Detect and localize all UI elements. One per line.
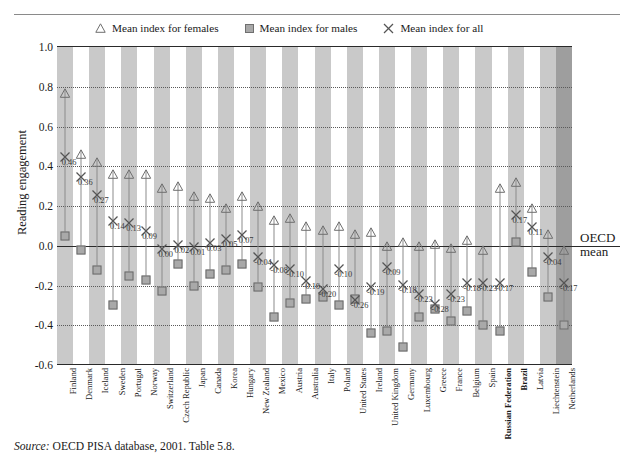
marker-female-triangle[interactable] <box>253 197 264 207</box>
marker-female-triangle[interactable] <box>156 179 167 189</box>
data-column[interactable]: 0.05 <box>218 47 234 365</box>
data-column[interactable]: -0.23 <box>475 47 491 365</box>
marker-female-triangle[interactable] <box>237 187 248 197</box>
marker-male-square[interactable] <box>366 329 375 338</box>
data-column[interactable]: -0.17 <box>492 47 508 365</box>
marker-female-triangle[interactable] <box>542 225 553 235</box>
data-column[interactable]: -0.18 <box>459 47 475 365</box>
marker-male-square[interactable] <box>254 283 263 292</box>
data-column[interactable]: 0.02 <box>170 47 186 365</box>
data-column[interactable]: 0.00 <box>154 47 170 365</box>
marker-female-triangle[interactable] <box>92 153 103 163</box>
square-icon <box>245 24 254 33</box>
marker-female-triangle[interactable] <box>60 84 71 94</box>
data-column[interactable]: 0.36 <box>73 47 89 365</box>
marker-female-triangle[interactable] <box>430 235 441 245</box>
marker-male-square[interactable] <box>189 281 198 290</box>
marker-female-triangle[interactable] <box>381 237 392 247</box>
marker-male-square[interactable] <box>61 231 70 240</box>
data-column[interactable]: -0.10 <box>282 47 298 365</box>
marker-male-square[interactable] <box>238 259 247 268</box>
marker-female-triangle[interactable] <box>526 199 537 209</box>
data-column[interactable]: -0.08 <box>266 47 282 365</box>
marker-male-square[interactable] <box>463 307 472 316</box>
data-column[interactable]: -0.17 <box>556 47 572 365</box>
marker-female-triangle[interactable] <box>124 165 135 175</box>
marker-female-triangle[interactable] <box>76 145 87 155</box>
marker-female-triangle[interactable] <box>494 179 505 189</box>
data-column[interactable]: -0.10 <box>331 47 347 365</box>
marker-male-square[interactable] <box>205 269 214 278</box>
range-stem <box>97 158 98 269</box>
data-column[interactable]: 0.11 <box>524 47 540 365</box>
marker-female-triangle[interactable] <box>108 165 119 175</box>
x-axis-label-ireland: Ireland <box>374 368 384 392</box>
marker-female-triangle[interactable] <box>204 189 215 199</box>
marker-female-triangle[interactable] <box>317 221 328 231</box>
marker-female-triangle[interactable] <box>558 241 569 251</box>
marker-male-square[interactable] <box>511 237 520 246</box>
data-column[interactable]: -0.20 <box>315 47 331 365</box>
marker-female-triangle[interactable] <box>510 173 521 183</box>
marker-male-square[interactable] <box>302 295 311 304</box>
marker-male-square[interactable] <box>382 327 391 336</box>
marker-female-triangle[interactable] <box>333 217 344 227</box>
marker-female-triangle[interactable] <box>269 211 280 221</box>
marker-female-triangle[interactable] <box>414 237 425 247</box>
data-column[interactable]: 0.17 <box>508 47 524 365</box>
marker-male-square[interactable] <box>221 265 230 274</box>
marker-female-triangle[interactable] <box>365 223 376 233</box>
data-column[interactable]: 0.13 <box>121 47 137 365</box>
marker-female-triangle[interactable] <box>140 165 151 175</box>
marker-male-square[interactable] <box>77 245 86 254</box>
marker-female-triangle[interactable] <box>188 187 199 197</box>
marker-female-triangle[interactable] <box>301 217 312 227</box>
marker-male-square[interactable] <box>399 343 408 352</box>
marker-male-square[interactable] <box>447 317 456 326</box>
data-column[interactable]: -0.19 <box>363 47 379 365</box>
marker-female-triangle[interactable] <box>285 209 296 219</box>
data-column[interactable]: -0.18 <box>395 47 411 365</box>
data-column[interactable]: 0.46 <box>57 47 73 365</box>
marker-male-square[interactable] <box>543 293 552 302</box>
data-column[interactable]: -0.04 <box>540 47 556 365</box>
marker-male-square[interactable] <box>334 301 343 310</box>
data-column[interactable]: 0.14 <box>105 47 121 365</box>
data-column[interactable]: -0.16 <box>298 47 314 365</box>
marker-male-square[interactable] <box>479 321 488 330</box>
marker-female-triangle[interactable] <box>478 241 489 251</box>
marker-male-square[interactable] <box>495 327 504 336</box>
data-column[interactable]: 0.27 <box>89 47 105 365</box>
data-column[interactable]: -0.09 <box>379 47 395 365</box>
x-axis-label-latvia: Latvia <box>535 368 545 390</box>
marker-male-square[interactable] <box>109 301 118 310</box>
data-column[interactable]: -0.23 <box>411 47 427 365</box>
marker-male-square[interactable] <box>157 287 166 296</box>
data-column[interactable]: 0.03 <box>202 47 218 365</box>
marker-male-square[interactable] <box>141 275 150 284</box>
data-column[interactable]: -0.28 <box>427 47 443 365</box>
marker-male-square[interactable] <box>559 321 568 330</box>
data-column[interactable]: 0.07 <box>234 47 250 365</box>
marker-male-square[interactable] <box>173 259 182 268</box>
data-column[interactable]: -0.23 <box>443 47 459 365</box>
marker-male-square[interactable] <box>93 265 102 274</box>
x-axis-label-denmark: Denmark <box>84 368 94 400</box>
data-column[interactable]: -0.04 <box>250 47 266 365</box>
marker-female-triangle[interactable] <box>349 225 360 235</box>
x-axis-label-germany: Germany <box>406 368 416 400</box>
data-column[interactable]: 0.01 <box>186 47 202 365</box>
marker-female-triangle[interactable] <box>398 233 409 243</box>
marker-male-square[interactable] <box>270 313 279 322</box>
marker-male-square[interactable] <box>125 271 134 280</box>
marker-female-triangle[interactable] <box>462 231 473 241</box>
marker-female-triangle[interactable] <box>446 239 457 249</box>
data-column[interactable]: -0.26 <box>347 47 363 365</box>
marker-female-triangle[interactable] <box>220 199 231 209</box>
range-stem <box>354 230 355 300</box>
marker-female-triangle[interactable] <box>172 177 183 187</box>
marker-male-square[interactable] <box>286 299 295 308</box>
marker-male-square[interactable] <box>527 267 536 276</box>
data-column[interactable]: 0.09 <box>137 47 153 365</box>
marker-male-square[interactable] <box>415 313 424 322</box>
